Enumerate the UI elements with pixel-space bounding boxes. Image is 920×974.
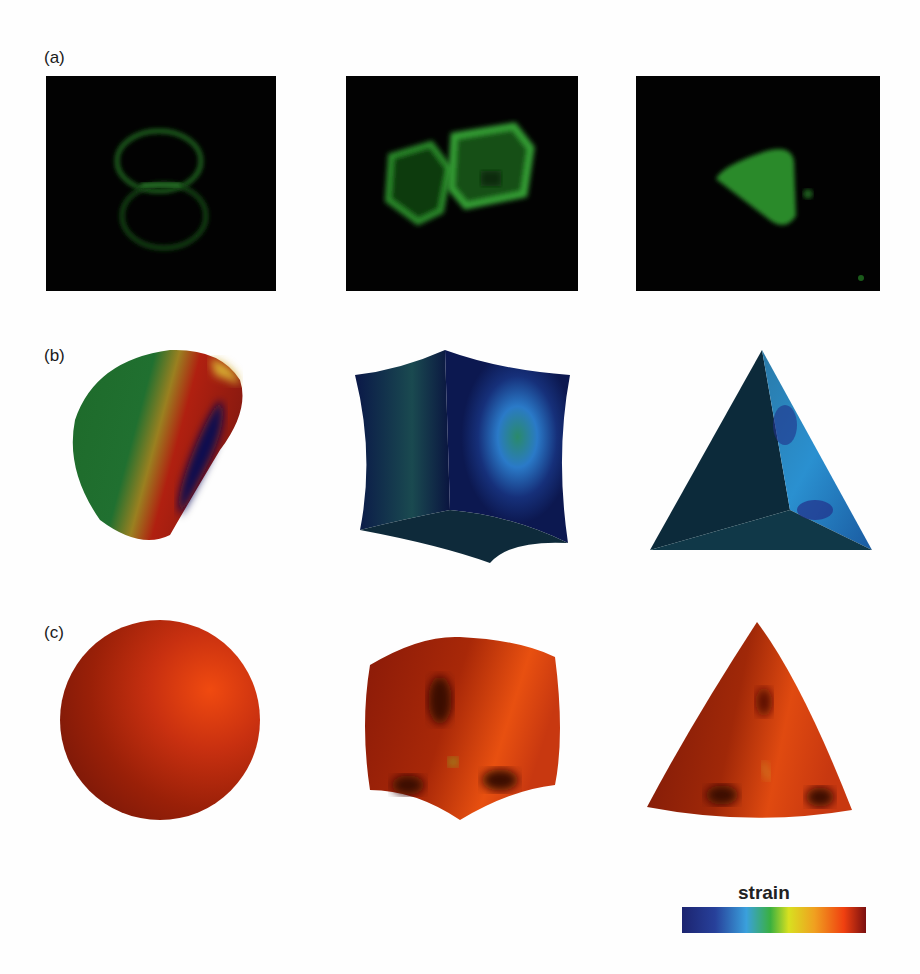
strain-colorbar [682,907,866,933]
micrograph-tetrahedron [636,76,880,291]
micrograph-sphere [46,76,276,291]
strain-render-sphere-b [60,340,280,550]
strain-render-sphere-c [58,620,263,825]
micrograph-cube [346,76,578,291]
strain-render-cube-c [360,625,560,825]
strain-render-tetrahedron-b [640,345,880,560]
cube-capsule-image [346,76,578,291]
strain-render-cube-b [350,345,590,570]
strain-render-tetrahedron-c [642,612,877,834]
sphere-capsule-image [46,76,276,291]
tetrahedron-capsule-image [636,76,880,291]
colorbar-title: strain [738,882,790,904]
panel-label-a: (a) [44,48,65,68]
